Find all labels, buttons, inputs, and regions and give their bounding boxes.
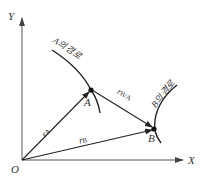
- x-axis-label: X: [188, 155, 195, 166]
- relative-motion-diagram: Y X O A B A의 경로 B의 경로 rB/A rA rB: [0, 0, 207, 180]
- point-a-label: A: [84, 97, 91, 108]
- point-b-label: B: [148, 133, 155, 144]
- vector-r-a: [22, 92, 89, 160]
- y-axis-label: Y: [8, 11, 14, 22]
- vector-r-b-label: rB: [78, 135, 88, 146]
- point-b-dot: [151, 126, 156, 131]
- point-a-dot: [88, 87, 93, 92]
- diagram-canvas: [0, 0, 207, 180]
- origin-label: O: [11, 164, 19, 175]
